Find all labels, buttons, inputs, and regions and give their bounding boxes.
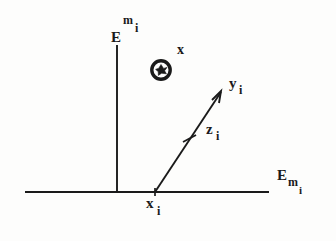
vector-tip-label-subscript: i [239, 84, 242, 96]
vertical-axis-label-base: E [111, 30, 121, 45]
horizontal-axis-label-base: E [277, 168, 287, 183]
vertical-axis-label-subscript: i [135, 22, 138, 34]
vector-origin-label-base: x [146, 196, 154, 211]
vector-tick-label-subscript: i [216, 130, 219, 142]
diagram-canvas [0, 0, 336, 241]
ringed-point-marker-icon [152, 61, 170, 79]
vector-origin-label-subscript: i [157, 205, 160, 217]
vertical-axis-label-superscript: m [123, 14, 133, 26]
figure-container: E m i E m i x y i z i x i [0, 0, 336, 241]
ringed-point-label-base: x [177, 42, 184, 57]
horizontal-axis-label-subscript-2: i [299, 185, 302, 196]
vector-arrowhead-icon [212, 91, 221, 103]
vector-tick-label-base: z [206, 122, 213, 137]
ringed-point-label: x [177, 41, 184, 57]
vector-line [155, 92, 221, 192]
vector-tip-label-base: y [229, 76, 237, 91]
horizontal-axis-label-subscript-1: m [288, 176, 298, 188]
